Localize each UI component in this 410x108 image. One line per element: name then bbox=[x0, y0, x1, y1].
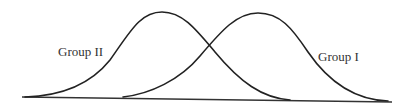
baseline-axis bbox=[22, 97, 392, 102]
distribution-diagram: Group II Group I bbox=[0, 0, 410, 108]
group-i-label: Group I bbox=[318, 49, 359, 64]
group-ii-label: Group II bbox=[58, 44, 103, 59]
diagram-canvas: Group II Group I bbox=[0, 0, 410, 108]
